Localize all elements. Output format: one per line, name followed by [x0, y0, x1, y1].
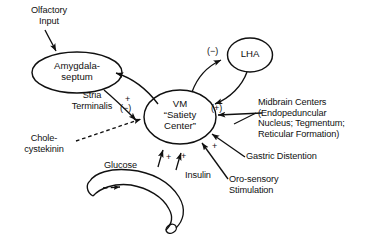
gut-outer-wall [90, 170, 183, 228]
midbrain-centers-label: Midbrain Centers (Endopeduncular Nucleus… [258, 97, 345, 139]
oro-sensory-stimulation-label: Oro-sensory Stimulation [229, 174, 278, 195]
sign-amygdala-to-vm-minus: (−) [120, 104, 131, 113]
gut-tube [87, 170, 183, 235]
vm-satiety-center-label: VM “Satiety Center” [144, 99, 216, 131]
sign-glucose-plus: + [166, 153, 171, 162]
gut-inner-wall [93, 185, 172, 230]
gastric-distention-label: Gastric Distention [246, 151, 317, 162]
gut-proximal-cap [87, 181, 93, 196]
lha-label: LHA [228, 49, 272, 60]
cholecystekinin-label: Chole- cystekinin [12, 133, 76, 154]
amygdala-septum-label: Amygdala- septum [32, 61, 122, 83]
sign-lha-to-vm-plus: (+) [211, 104, 222, 113]
edge-glucose-to-vm [158, 150, 163, 167]
edge-lha-to-vm [215, 72, 247, 104]
edge-vm-to-lha [192, 60, 221, 92]
sign-gastric-distention-plus: + [212, 142, 217, 151]
glucose-label: Glucose [104, 160, 137, 171]
sign-insulin-plus: + [181, 152, 186, 161]
gut-distal-opening [164, 223, 177, 235]
sign-vm-to-lha-minus: (−) [207, 47, 218, 56]
olfactory-input-label: Olfactory Input [14, 5, 84, 26]
insulin-label: Insulin [185, 170, 211, 181]
satiety-center-diagram: Amygdala- septum VM “Satiety Center” LHA… [0, 0, 386, 245]
edge-olfactory-to-amygdala [45, 30, 56, 51]
edge-cholecystekinin-to-vm [76, 119, 141, 141]
stria-terminalis-label: Stria Terminalis [60, 90, 124, 111]
